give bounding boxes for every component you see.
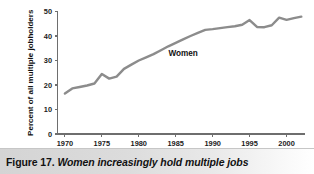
y-tick-label: 0 bbox=[48, 130, 52, 139]
figure-caption: Figure 17. Women increasingly hold multi… bbox=[0, 156, 248, 168]
x-tick-label: 2000 bbox=[278, 139, 294, 148]
y-tick-label: 20 bbox=[44, 81, 52, 90]
figure-caption-number: Figure 17. bbox=[6, 156, 55, 168]
figure-caption-bar: Figure 17. Women increasingly hold multi… bbox=[0, 148, 314, 174]
figure-17-container: 010203040501970197519801985199019952000W… bbox=[0, 0, 314, 174]
x-tick-label: 1975 bbox=[94, 139, 110, 148]
y-axis-title: Percent of all multiple jobholders bbox=[26, 9, 35, 136]
chart-panel: 010203040501970197519801985199019952000W… bbox=[0, 0, 314, 148]
series-annotation-women: Women bbox=[168, 49, 197, 58]
x-tick-label: 1980 bbox=[131, 139, 147, 148]
y-tick-label: 30 bbox=[44, 56, 52, 65]
x-tick-label: 1990 bbox=[204, 139, 220, 148]
x-tick-label: 1995 bbox=[241, 139, 257, 148]
y-tick-label: 50 bbox=[44, 7, 52, 16]
figure-caption-title: Women increasingly hold multiple jobs bbox=[57, 156, 248, 168]
x-tick-label: 1970 bbox=[57, 139, 73, 148]
line-chart: 010203040501970197519801985199019952000W… bbox=[0, 0, 314, 148]
y-tick-label: 40 bbox=[44, 32, 52, 41]
x-tick-label: 1985 bbox=[167, 139, 183, 148]
y-tick-label: 10 bbox=[44, 105, 52, 114]
